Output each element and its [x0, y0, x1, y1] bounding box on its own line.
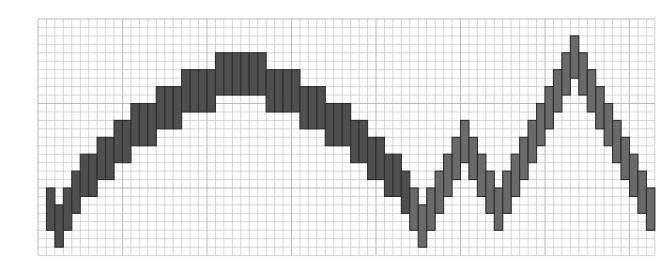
bar [182, 70, 190, 112]
bar [114, 120, 122, 162]
bar [630, 154, 638, 196]
bar [452, 137, 460, 179]
bar [317, 87, 325, 129]
bar [359, 120, 367, 162]
bar [300, 87, 308, 129]
bar [368, 137, 376, 179]
bar [283, 70, 291, 112]
bar [139, 104, 147, 146]
bar [494, 188, 502, 230]
bar [646, 188, 654, 230]
bar [165, 87, 173, 129]
bar [325, 104, 333, 146]
bar [401, 171, 409, 213]
bar [587, 70, 595, 112]
bar [477, 154, 485, 196]
bar [503, 171, 511, 213]
bar [106, 137, 114, 179]
bar [199, 70, 207, 112]
bar [55, 205, 63, 247]
bar [638, 171, 646, 213]
bar [351, 120, 359, 162]
bar [418, 205, 426, 247]
bar [613, 120, 621, 162]
bar [604, 104, 612, 146]
bar [621, 137, 629, 179]
bar [520, 137, 528, 179]
bar [596, 87, 604, 129]
bar [570, 36, 578, 78]
bar [215, 53, 223, 95]
bar [553, 70, 561, 112]
bar [342, 104, 350, 146]
bar [131, 104, 139, 146]
bar [292, 70, 300, 112]
bar [511, 154, 519, 196]
bar [545, 87, 553, 129]
bar [376, 137, 384, 179]
bar [537, 104, 545, 146]
bar [173, 87, 181, 129]
bar [427, 188, 435, 230]
bar [562, 53, 570, 95]
bar [148, 104, 156, 146]
bar [190, 70, 198, 112]
bar [486, 171, 494, 213]
bar [384, 154, 392, 196]
floating-bar-chart [0, 0, 671, 263]
bar [249, 53, 257, 95]
bar [393, 154, 401, 196]
bar [97, 137, 105, 179]
bar [258, 53, 266, 95]
bar [89, 154, 97, 196]
bar [469, 137, 477, 179]
bar [275, 70, 283, 112]
bar [207, 70, 215, 112]
bar [461, 120, 469, 162]
bar [308, 87, 316, 129]
bar [72, 171, 80, 213]
bar [266, 70, 274, 112]
bar [46, 188, 54, 230]
bar [528, 120, 536, 162]
bar [410, 188, 418, 230]
bar [156, 87, 164, 129]
bar [435, 171, 443, 213]
bar [334, 104, 342, 146]
bar [232, 53, 240, 95]
bar [444, 154, 452, 196]
bar [241, 53, 249, 95]
bar [224, 53, 232, 95]
bar [63, 188, 71, 230]
bar [123, 120, 131, 162]
bar [579, 53, 587, 95]
bar [80, 154, 88, 196]
